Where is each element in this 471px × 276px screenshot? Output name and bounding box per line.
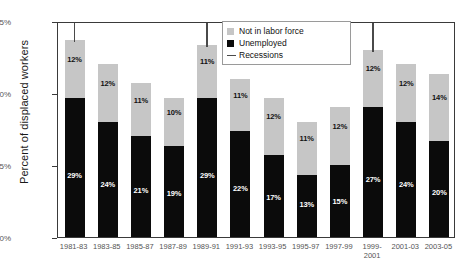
bar-1989-91: 29%11%: [197, 45, 217, 237]
bar-segment-unemployed: [65, 98, 85, 237]
recession-marker-1981-83: [74, 23, 76, 42]
bar-2001-03: 24%12%: [396, 64, 416, 237]
bar-1981-83: 29%12%: [65, 40, 85, 237]
x-axis-tick-label-line: 2001: [342, 251, 402, 260]
legend-item-not-in-labor-force: Not in labor force: [227, 25, 345, 37]
bar-segment-not-in-labor-force: [98, 64, 118, 122]
bar-segment-not-in-labor-force: [297, 122, 317, 175]
bar-segment-not-in-labor-force: [363, 50, 383, 108]
bar-segment-unemployed: [363, 107, 383, 237]
recession-marker-1999-2001: [372, 23, 374, 52]
recession-marker-1989-91: [206, 23, 208, 47]
bar-segment-unemployed: [98, 122, 118, 237]
displaced-workers-chart: Percent of displaced workers 0%15%30%45%…: [0, 0, 471, 276]
bar-segment-unemployed: [197, 98, 217, 237]
bar-1997-99: 15%12%: [330, 107, 350, 237]
legend-swatch-line: [227, 55, 236, 56]
bar-1985-87: 21%11%: [131, 83, 151, 237]
bar-segment-not-in-labor-force: [396, 64, 416, 122]
bar-1993-95: 17%12%: [264, 98, 284, 237]
bar-segment-not-in-labor-force: [264, 98, 284, 156]
x-axis-tick-label: 2003-05: [408, 242, 468, 251]
bar-segment-unemployed: [429, 141, 449, 237]
legend-swatch-gray-square: [227, 28, 234, 35]
y-axis-title: Percent of displaced workers: [18, 0, 30, 232]
y-axis-tick-label: 45%: [0, 18, 11, 27]
bar-1999-2001: 27%12%: [363, 50, 383, 237]
y-axis-tick-label: 0%: [0, 234, 11, 243]
bar-segment-not-in-labor-force: [330, 107, 350, 165]
legend-swatch-black-square: [227, 40, 234, 47]
bar-1987-89: 19%10%: [164, 98, 184, 237]
bar-segment-not-in-labor-force: [197, 45, 217, 98]
bar-segment-unemployed: [264, 155, 284, 237]
y-axis-tick-label: 30%: [0, 90, 11, 99]
bar-segment-not-in-labor-force: [131, 83, 151, 136]
bar-1995-97: 13%11%: [297, 122, 317, 237]
legend-label: Not in labor force: [239, 26, 304, 36]
bar-2003-05: 20%14%: [429, 74, 449, 237]
legend-label: Unemployed: [239, 38, 287, 48]
bar-segment-unemployed: [330, 165, 350, 237]
bar-1991-93: 22%11%: [230, 79, 250, 237]
bar-segment-unemployed: [131, 136, 151, 237]
bar-segment-unemployed: [297, 175, 317, 237]
y-axis-tick-mark: [52, 238, 57, 239]
y-axis-tick-label: 15%: [0, 162, 11, 171]
legend-item-unemployed: Unemployed: [227, 37, 345, 49]
bar-segment-unemployed: [230, 131, 250, 237]
bar-1983-85: 24%12%: [98, 64, 118, 237]
chart-legend: Not in labor forceUnemployedRecessions: [222, 21, 351, 65]
bar-segment-not-in-labor-force: [65, 40, 85, 98]
bar-segment-not-in-labor-force: [429, 74, 449, 141]
bar-segment-unemployed: [164, 146, 184, 237]
bar-segment-unemployed: [396, 122, 416, 237]
bar-segment-not-in-labor-force: [230, 79, 250, 132]
legend-label: Recessions: [239, 50, 283, 60]
bar-segment-not-in-labor-force: [164, 98, 184, 146]
legend-item-recessions: Recessions: [227, 49, 345, 61]
